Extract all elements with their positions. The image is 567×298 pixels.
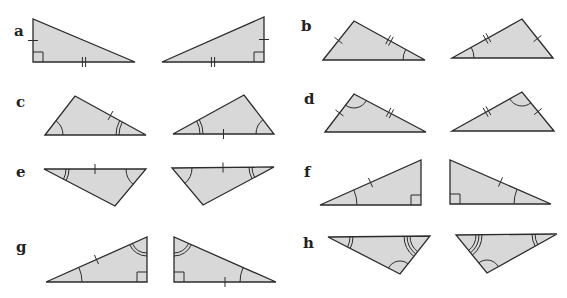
triangle-shape (173, 95, 274, 134)
pair-d: d (304, 90, 554, 132)
pair-label: a (14, 22, 24, 40)
triangle-shape (174, 237, 276, 282)
pair-label: b (301, 17, 312, 35)
right-triangle (173, 95, 274, 139)
pair-label: d (304, 90, 315, 108)
right-triangle (452, 19, 553, 58)
triangle-shape (328, 236, 430, 274)
triangle-shape (172, 167, 274, 205)
pair-c: c (16, 93, 274, 139)
congruent-triangles-figure: abcdefgh (0, 0, 567, 298)
left-triangle (44, 164, 146, 206)
pair-label: e (16, 163, 26, 181)
triangle-shape (162, 17, 264, 62)
pair-label: c (16, 93, 25, 111)
left-triangle (325, 94, 426, 132)
pair-h: h (303, 234, 557, 274)
pair-a: a (14, 17, 269, 67)
right-triangle (162, 17, 269, 67)
right-triangle (172, 163, 274, 205)
triangle-shape (44, 169, 146, 206)
pair-f: f (304, 160, 551, 205)
left-triangle (28, 19, 135, 67)
pair-g: g (16, 237, 276, 287)
triangle-shape (33, 19, 135, 62)
right-triangle (456, 234, 557, 273)
triangle-shape (456, 234, 557, 273)
right-triangle (174, 237, 276, 287)
left-triangle (328, 236, 430, 274)
triangle-pairs-svg: abcdefgh (0, 0, 567, 298)
pair-b: b (301, 17, 553, 60)
pair-label: g (16, 238, 27, 256)
right-triangle (452, 92, 554, 131)
right-triangle (450, 160, 551, 204)
pair-e: e (16, 163, 274, 206)
pair-label: f (304, 163, 312, 181)
left-triangle (46, 237, 147, 282)
left-triangle (45, 96, 146, 135)
left-triangle (323, 21, 425, 60)
left-triangle (320, 160, 421, 205)
pair-label: h (303, 234, 314, 252)
triangle-shape (45, 96, 146, 135)
